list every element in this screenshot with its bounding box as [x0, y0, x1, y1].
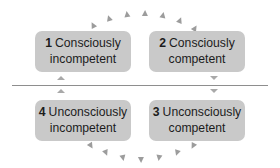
stage-2-line2: competent — [169, 52, 226, 66]
triangle-down-icon-right-above — [210, 76, 218, 80]
four-stages-of-competence-diagram: 1Consciouslyincompetent 2Consciouslycomp… — [0, 0, 280, 168]
arrow-marker-icon — [176, 16, 184, 24]
arrow-marker-icon — [189, 142, 197, 150]
stage-3-number: 3 — [153, 105, 160, 119]
stage-4-number: 4 — [39, 105, 46, 119]
arrow-marker-icon — [124, 11, 131, 18]
stage-1-line2: incompetent — [50, 52, 116, 66]
arrow-marker-icon — [138, 157, 144, 163]
conscious-unconscious-divider — [12, 85, 268, 86]
triangle-down-icon-right-below — [210, 89, 218, 93]
stage-2-number: 2 — [159, 36, 166, 50]
stage-1-text: 1Consciouslyincompetent — [45, 35, 121, 68]
triangle-up-icon-left-above — [57, 76, 65, 80]
arrow-marker-icon — [173, 149, 181, 157]
stage-1-line1: Consciously — [55, 36, 121, 50]
stage-box-3[interactable]: 3Unconsciouslycompetent — [149, 100, 245, 141]
stage-1-number: 1 — [45, 36, 52, 50]
arrow-marker-icon — [156, 155, 163, 162]
stage-box-2[interactable]: 2Consciouslycompetent — [149, 31, 245, 72]
stage-2-text: 2Consciouslycompetent — [159, 35, 235, 68]
arrow-marker-icon — [87, 142, 95, 150]
arrow-marker-icon — [119, 154, 126, 161]
arrow-marker-icon — [159, 11, 166, 18]
stage-4-line2: incompetent — [50, 121, 116, 135]
arrow-marker-icon — [102, 149, 110, 157]
arrow-marker-icon — [105, 14, 113, 22]
stage-box-4[interactable]: 4Unconsciouslyincompetent — [35, 100, 131, 141]
stage-2-line1: Consciously — [169, 36, 235, 50]
stage-box-1[interactable]: 1Consciouslyincompetent — [35, 31, 131, 72]
triangle-up-icon-left-below — [57, 89, 65, 93]
stage-3-line2: competent — [169, 121, 226, 135]
arrow-marker-icon — [142, 10, 148, 16]
stage-3-text: 3Unconsciouslycompetent — [153, 104, 241, 137]
stage-4-text: 4Unconsciouslyincompetent — [39, 104, 127, 137]
arrow-marker-icon — [89, 21, 97, 29]
stage-4-line1: Unconsciously — [49, 105, 128, 119]
stage-3-line1: Unconsciously — [163, 105, 242, 119]
